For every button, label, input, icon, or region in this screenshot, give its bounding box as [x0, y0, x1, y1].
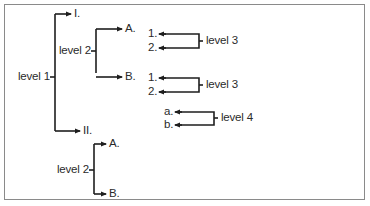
level3-group1-item-1: 1.: [148, 28, 157, 40]
level3-group1-bracket: [161, 34, 199, 48]
level4-item-a: a.: [164, 106, 173, 118]
level3-group2-item-1: 1.: [148, 72, 157, 84]
lower-item-A: A.: [109, 138, 119, 150]
level3-group1-item-2: 2.: [148, 42, 157, 54]
upper-item-B: B.: [125, 71, 135, 83]
level1-label: level 1: [18, 71, 50, 83]
level4-item-b: b.: [164, 119, 173, 131]
level4-bracket: [177, 112, 214, 125]
roman-II-label: II.: [83, 125, 92, 137]
upper-level2-label: level 2: [59, 45, 91, 57]
lower-level2-label: level 2: [57, 164, 89, 176]
level3-group2-bracket: [161, 78, 199, 92]
level3-group1-label: level 3: [206, 35, 238, 47]
level3-group2-label: level 3: [206, 79, 238, 91]
connector-lines: [0, 0, 370, 206]
upper-item-A: A.: [125, 23, 135, 35]
level3-group2-item-2: 2.: [148, 86, 157, 98]
lower-item-B: B.: [109, 188, 119, 200]
level4-label: level 4: [221, 112, 253, 124]
roman-I-label: I.: [74, 8, 80, 20]
